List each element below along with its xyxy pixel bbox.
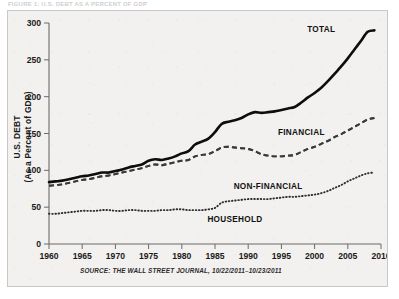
figure-caption: FIGURE 1: U.S. DEBT AS A PERCENT OF GDP — [8, 0, 248, 7]
figure-frame: 050100150200250300 196019651970197519801… — [7, 10, 388, 287]
series-label-household: HOUSEHOLD — [207, 215, 262, 224]
series-label-total: TOTAL — [307, 25, 335, 34]
y-tick-label: 50 — [31, 202, 41, 212]
series-group — [49, 30, 374, 213]
x-tick-label: 1960 — [39, 251, 58, 261]
x-tick-label: 1980 — [172, 251, 191, 261]
source-note-text: SOURCE: THE WALL STREET JOURNAL, 10/22/2… — [80, 267, 282, 275]
x-tick-label: 2005 — [338, 251, 357, 261]
y-tick-label: 300 — [27, 18, 42, 28]
series-line-non-financial — [49, 118, 374, 186]
debt-line-chart: 050100150200250300 196019651970197519801… — [8, 11, 387, 286]
x-tick-label: 1995 — [272, 251, 291, 261]
x-tick-label: 1990 — [239, 251, 258, 261]
y-tick-label: 0 — [36, 239, 41, 249]
series-label-financial: FINANCIAL — [278, 128, 325, 137]
series-line-household — [49, 173, 374, 214]
x-tick-label: 2000 — [305, 251, 324, 261]
x-tick-label: 1975 — [139, 251, 158, 261]
y-axis-title-line2: (As a Percent of GDP) — [23, 91, 33, 182]
series-line-total — [49, 30, 374, 182]
x-tick-label: 1985 — [205, 251, 224, 261]
x-axis-ticks: 1960196519701975198019851990199520002005… — [39, 244, 387, 261]
y-axis-title-line1: U.S. DEBT — [12, 115, 22, 159]
x-tick-label: 1970 — [106, 251, 125, 261]
y-tick-label: 250 — [27, 55, 42, 65]
series-label-non-financial: NON-FINANCIAL — [234, 182, 303, 191]
x-tick-label: 2010 — [371, 251, 387, 261]
x-tick-label: 1965 — [73, 251, 92, 261]
source-note: SOURCE: THE WALL STREET JOURNAL, 10/22/2… — [8, 263, 387, 283]
y-axis-title: U.S. DEBT (As a Percent of GDP) — [12, 91, 33, 182]
